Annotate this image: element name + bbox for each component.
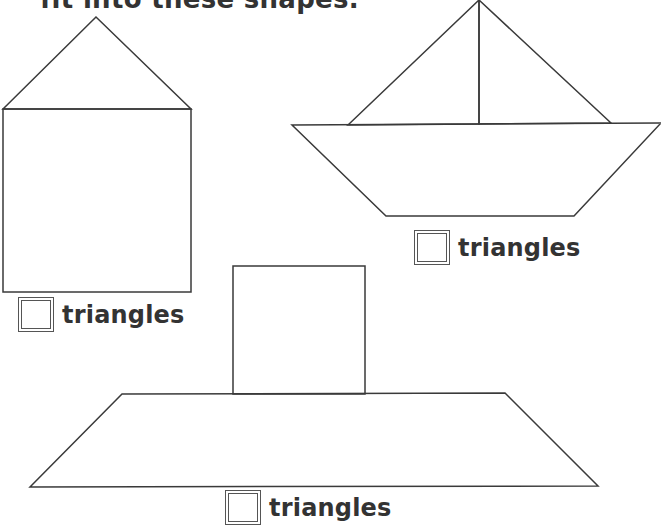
sail-right-triangle <box>479 0 611 124</box>
ship-answer: triangles <box>225 490 392 525</box>
ship-cabin-square <box>233 266 365 394</box>
house-answer: triangles <box>18 297 185 332</box>
house-roof-triangle <box>3 17 191 109</box>
sailboat-answer-box[interactable] <box>414 230 450 265</box>
ship-answer-label: triangles <box>269 494 392 522</box>
sailboat-answer-label: triangles <box>458 234 581 262</box>
boat-hull <box>292 123 661 216</box>
house-shape <box>3 17 191 292</box>
house-answer-box[interactable] <box>18 297 54 332</box>
house-body-square <box>3 109 191 292</box>
house-answer-label: triangles <box>62 301 185 329</box>
sailboat-answer: triangles <box>414 230 581 265</box>
sail-left-triangle <box>348 0 479 125</box>
sailboat-shape <box>292 0 661 216</box>
ship-answer-box[interactable] <box>225 490 261 525</box>
ship-hull-trapezoid <box>30 393 598 487</box>
